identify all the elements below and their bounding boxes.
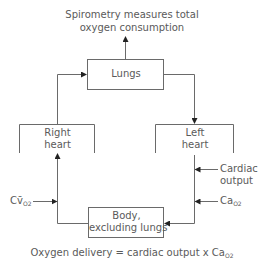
formula-text: Oxygen delivery = cardiac output x Ca [30,247,224,258]
cvo2-sub: O2 [23,200,32,207]
left-heart-label-2: heart [156,139,234,151]
right-heart-to-lungs-arrow [58,75,87,125]
cao2-sub: O2 [233,200,242,207]
right-heart-label-2: heart [20,139,95,151]
body-label-2: excluding lungs [89,222,164,234]
body-to-right-heart-arrow [58,154,89,224]
cvo2-label: Cv̄O2 [10,195,31,210]
cao2-main: Ca [220,195,233,206]
right-heart-label-1: Right [20,127,95,139]
title-line-1: Spirometry measures total [60,9,204,21]
cvo2-main: Cv̄ [10,195,23,206]
oxygen-delivery-formula: Oxygen delivery = cardiac output x CaO2 [10,247,254,262]
cardiac-output-label-2: output [220,175,253,187]
left-heart-label-1: Left [156,127,234,139]
cao2-label: CaO2 [220,195,242,210]
body-label-1: Body, [89,210,164,222]
lungs-label: Lungs [88,68,164,80]
formula-sub: O2 [225,252,234,259]
lungs-to-left-heart-arrow [164,75,195,124]
cardiac-output-label-1: Cardiac [220,163,258,175]
left-heart-to-body-arrow [165,155,195,224]
title-line-2: oxygen consumption [60,22,204,34]
